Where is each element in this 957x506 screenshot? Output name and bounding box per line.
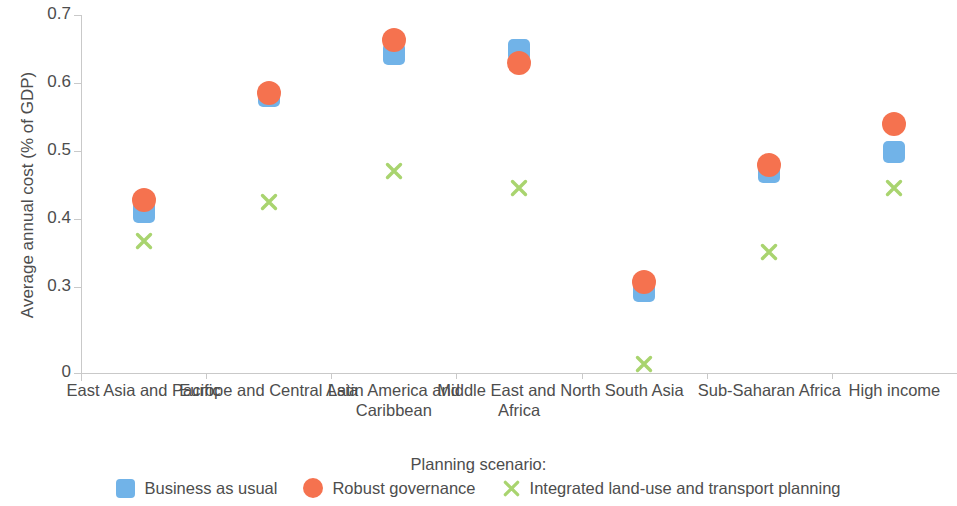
x-axis-line bbox=[81, 373, 957, 374]
y-tick-label: 0.5 bbox=[11, 140, 71, 160]
y-tick bbox=[74, 373, 81, 374]
y-tick-label: 0.6 bbox=[11, 72, 71, 92]
data-point-circle bbox=[382, 28, 406, 52]
y-tick-label: 0.4 bbox=[11, 208, 71, 228]
data-point-cross bbox=[634, 354, 654, 374]
legend-cross-icon bbox=[502, 479, 521, 498]
data-point-cross bbox=[509, 178, 529, 198]
plot-area bbox=[81, 8, 957, 373]
y-tick bbox=[74, 219, 81, 220]
y-tick-label: 0.3 bbox=[11, 276, 71, 296]
y-axis-title: Average annual cost (% of GDP) bbox=[18, 15, 38, 375]
x-tick bbox=[582, 373, 583, 379]
data-point-square bbox=[883, 141, 905, 163]
x-tick bbox=[456, 373, 457, 379]
data-point-circle bbox=[257, 81, 281, 105]
data-point-circle bbox=[757, 153, 781, 177]
y-tick bbox=[74, 151, 81, 152]
legend-label: Robust governance bbox=[332, 479, 475, 498]
x-tick bbox=[832, 373, 833, 379]
legend-item[interactable]: Robust governance bbox=[303, 478, 475, 498]
data-point-circle bbox=[507, 51, 531, 75]
data-point-circle bbox=[882, 112, 906, 136]
legend-square-icon bbox=[116, 479, 135, 498]
legend-item[interactable]: Business as usual bbox=[116, 479, 277, 498]
data-point-cross bbox=[759, 242, 779, 262]
legend-label: Integrated land-use and transport planni… bbox=[530, 479, 841, 498]
x-tick bbox=[331, 373, 332, 379]
data-point-circle bbox=[132, 188, 156, 212]
y-tick bbox=[74, 15, 81, 16]
legend-label: Business as usual bbox=[144, 479, 277, 498]
y-tick-label: 0 bbox=[11, 362, 71, 382]
data-point-cross bbox=[134, 231, 154, 251]
y-tick bbox=[74, 83, 81, 84]
chart-container: Average annual cost (% of GDP) 00.30.40.… bbox=[0, 0, 957, 506]
y-tick bbox=[74, 287, 81, 288]
legend-item[interactable]: Integrated land-use and transport planni… bbox=[502, 479, 841, 498]
legend-circle-icon bbox=[303, 478, 323, 498]
y-tick-label: 0.7 bbox=[11, 4, 71, 24]
x-tick bbox=[707, 373, 708, 379]
data-point-cross bbox=[884, 178, 904, 198]
data-point-cross bbox=[259, 192, 279, 212]
data-point-cross bbox=[384, 161, 404, 181]
y-axis-line bbox=[81, 15, 82, 381]
legend: Business as usualRobust governanceIntegr… bbox=[0, 478, 957, 498]
legend-title: Planning scenario: bbox=[0, 455, 957, 474]
x-category-label: High income bbox=[804, 380, 957, 400]
x-tick bbox=[206, 373, 207, 379]
x-axis-category-labels: East Asia and PacificEurope and Central … bbox=[81, 380, 957, 452]
